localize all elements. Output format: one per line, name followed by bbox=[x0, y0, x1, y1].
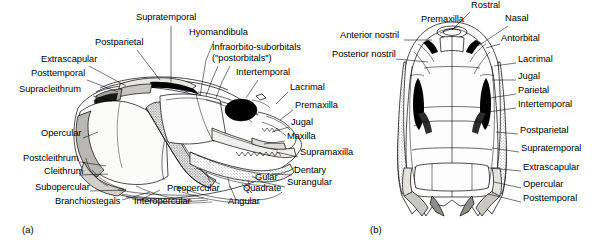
label-posttemporal-b: Posttemporal bbox=[523, 193, 577, 204]
label-infraorbito-suborbitals-a: Infraorbito-suborbitals bbox=[212, 42, 301, 53]
label-surangular-a: Surangular bbox=[287, 177, 332, 188]
label-supramaxilla-a: Supramaxilla bbox=[300, 147, 353, 158]
label-extrascapular-b: Extrascapular bbox=[523, 162, 579, 173]
label-postorbitals-a: ("postorbitals") bbox=[212, 53, 272, 64]
label-supratemporal-a: Supratemporal bbox=[136, 12, 196, 23]
label-postparietal-b: Postparietal bbox=[520, 125, 569, 136]
label-lacrimal-a: Lacrimal bbox=[290, 82, 325, 93]
label-postparietal-a: Postparietal bbox=[95, 37, 144, 48]
label-intertemporal-a: Intertemporal bbox=[236, 67, 290, 78]
panel-letter-a: (a) bbox=[22, 224, 34, 235]
label-supracleithrum-a: Supracleithrum bbox=[19, 84, 81, 95]
label-preopercular-a: Preopercular bbox=[167, 183, 220, 194]
label-jugal-a: Jugal bbox=[291, 117, 313, 128]
panel-b-artwork bbox=[398, 22, 507, 216]
label-extrascapular-a: Extrascapular bbox=[41, 54, 97, 65]
label-posterior-nostril-b: Posterior nostril bbox=[332, 49, 396, 60]
label-intertemporal-b: Intertemporal bbox=[518, 99, 572, 110]
label-angular-a: Angular bbox=[228, 196, 260, 207]
panel-letter-b: (b) bbox=[370, 224, 382, 235]
label-gular-a: Gular bbox=[255, 172, 277, 183]
anatomical-figure: Supratemporal Hyomandibula Infraorbito-s… bbox=[0, 0, 615, 249]
label-posttemporal-a: Posttemporal bbox=[31, 68, 85, 79]
label-opercular-b: Opercular bbox=[523, 179, 563, 190]
label-anterior-nostril-b: Anterior nostril bbox=[340, 30, 399, 41]
label-lacrimal-b: Lacrimal bbox=[518, 54, 553, 65]
label-antorbital-b: Antorbital bbox=[501, 33, 540, 44]
label-opercular-a: Opercular bbox=[41, 128, 81, 139]
label-rostral-b: Rostral bbox=[471, 0, 500, 11]
label-dentary-a: Dentary bbox=[294, 165, 326, 176]
label-maxilla-a: Maxilla bbox=[287, 131, 316, 142]
label-cleithrum-a: Cleithrum bbox=[44, 166, 83, 177]
label-nasal-b: Nasal bbox=[505, 13, 529, 24]
label-subopercular-a: Subopercular bbox=[35, 182, 90, 193]
label-postcleithrum-a: Postcleithrum bbox=[23, 153, 79, 164]
label-hyomandibula-a: Hyomandibula bbox=[189, 27, 248, 38]
label-quadrate-a: Quadrate bbox=[243, 183, 281, 194]
label-parietal-b: Parietal bbox=[518, 85, 549, 96]
label-branchiostegals-a: Branchiostegals bbox=[55, 196, 120, 207]
label-premaxilla-a: Premaxilla bbox=[295, 100, 338, 111]
label-supratemporal-b: Supratemporal bbox=[521, 143, 581, 154]
label-premaxilla-b: Premaxilla bbox=[421, 14, 464, 25]
label-jugal-b: Jugal bbox=[518, 71, 540, 82]
label-interopercular-a: Interopercular bbox=[134, 196, 191, 207]
